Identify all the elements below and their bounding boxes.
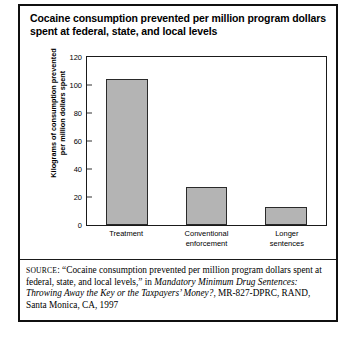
figure-title: Cocaine consumption prevented per millio… — [30, 12, 330, 38]
x-axis-label: Longersentences — [247, 229, 327, 248]
bar-chart: Kilograms of consumption prevented per m… — [20, 46, 336, 251]
x-axis-label-line: sentences — [247, 239, 327, 249]
y-axis-tick-label: 20 — [45, 193, 87, 202]
section-divider — [20, 259, 336, 260]
x-axis-label-line: enforcement — [166, 239, 246, 249]
y-axis-tick-label: 100 — [45, 81, 87, 90]
x-axis-label: Treatment — [86, 229, 166, 239]
plot-area: 020406080100120 — [86, 56, 327, 226]
x-axis-label: Conventionalenforcement — [166, 229, 246, 248]
x-axis-label-line: Conventional — [166, 229, 246, 239]
bar — [265, 207, 306, 225]
y-axis-tick-label: 40 — [45, 165, 87, 174]
bar — [106, 79, 147, 225]
x-axis-label-line: Treatment — [86, 229, 166, 239]
y-axis-tick-label: 60 — [45, 137, 87, 146]
source-note: SOURCE: “Cocaine consumption prevented p… — [26, 265, 330, 311]
x-axis-label-line: Longer — [247, 229, 327, 239]
figure-title-line1: Cocaine consumption prevented per millio… — [30, 12, 326, 24]
y-axis-tick-label: 0 — [45, 221, 87, 230]
source-label: SOURCE — [26, 266, 57, 275]
y-axis-tick-label: 120 — [45, 53, 87, 62]
bar-series — [87, 57, 326, 225]
y-axis-tick-label: 80 — [45, 109, 87, 118]
bar — [186, 187, 227, 225]
figure-frame: Cocaine consumption prevented per millio… — [18, 4, 338, 322]
figure-title-line2: spent at federal, state, and local level… — [30, 25, 330, 38]
x-axis-labels: TreatmentConventionalenforcementLongerse… — [86, 229, 327, 255]
figure-page: Cocaine consumption prevented per millio… — [0, 0, 350, 340]
